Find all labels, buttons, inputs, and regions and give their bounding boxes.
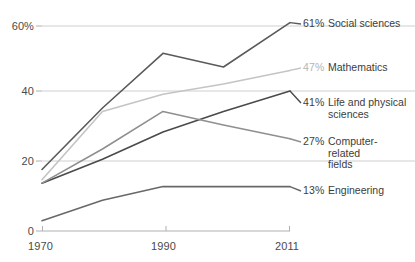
y-tick-label-40: 40 <box>0 85 34 97</box>
leader-line <box>290 187 301 191</box>
series-line <box>42 23 290 170</box>
series-end-value: 13% <box>303 185 324 197</box>
x-axis <box>42 226 290 231</box>
leader-lines <box>290 23 301 191</box>
y-tick-label-60: 60% <box>0 20 34 32</box>
leader-line <box>290 91 301 103</box>
series-name-label: Computer- related fields <box>328 136 378 171</box>
line-chart: 60% 40 20 0 1970 1990 2011 61%Social sci… <box>0 0 415 262</box>
series-line <box>42 187 290 221</box>
series-name-label: Life and physical sciences <box>328 97 406 120</box>
y-axis-ticks <box>36 26 42 231</box>
series-end-value: 47% <box>303 62 324 74</box>
x-tick-label-2011: 2011 <box>275 240 299 252</box>
leader-line <box>290 23 301 24</box>
leader-line <box>290 139 301 142</box>
series-line <box>42 70 290 179</box>
series-name-label: Mathematics <box>328 62 388 74</box>
series-line <box>42 111 290 183</box>
series-end-value: 61% <box>303 18 324 30</box>
x-tick-label-1990: 1990 <box>151 240 176 252</box>
series-lines <box>42 23 290 221</box>
series-name-label: Social sciences <box>328 18 400 30</box>
series-end-value: 27% <box>303 136 324 148</box>
series-end-value: 41% <box>303 97 324 109</box>
chart-canvas <box>0 0 415 262</box>
series-name-label: Engineering <box>328 185 384 197</box>
x-tick-label-1970: 1970 <box>28 240 53 252</box>
y-tick-label-0: 0 <box>0 225 34 237</box>
leader-line <box>290 68 301 70</box>
y-tick-label-20: 20 <box>0 155 34 167</box>
